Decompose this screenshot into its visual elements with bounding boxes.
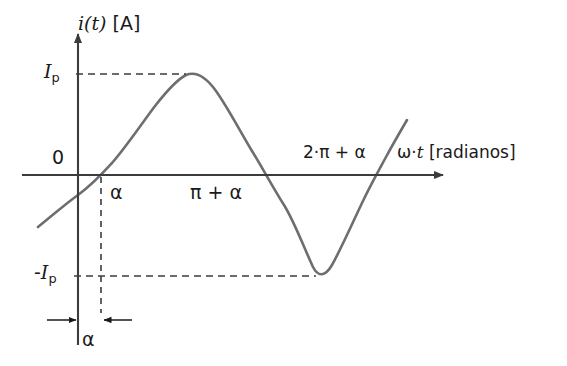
sinusoidal-current-figure: i(t) [A] Ip -Ip 0 α π + α 2·π + α ω·t [r… xyxy=(0,0,567,366)
y-axis-title-unit: [A] xyxy=(113,12,141,34)
y-tick-label-peak-negative: -Ip xyxy=(34,263,57,286)
plot-canvas xyxy=(0,0,567,366)
x-axis-title-unit: [radianos] xyxy=(429,142,516,162)
x-tick-label-two-pi-plus-alpha: 2·π + α xyxy=(303,144,366,161)
y-axis-title-variable: i(t) xyxy=(78,12,107,34)
x-axis-title-omega: ω xyxy=(397,142,411,162)
x-axis-title: ω·t [radianos] xyxy=(397,144,516,161)
alpha-dimension-label: α xyxy=(82,330,95,349)
x-tick-label-alpha: α xyxy=(110,183,123,202)
origin-label-zero: 0 xyxy=(52,148,64,167)
y-tick-label-peak-positive: Ip xyxy=(44,62,60,85)
y-axis-title: i(t) [A] xyxy=(78,14,140,33)
x-tick-label-pi-plus-alpha: π + α xyxy=(190,183,242,202)
x-axis-title-t: t xyxy=(417,142,424,162)
